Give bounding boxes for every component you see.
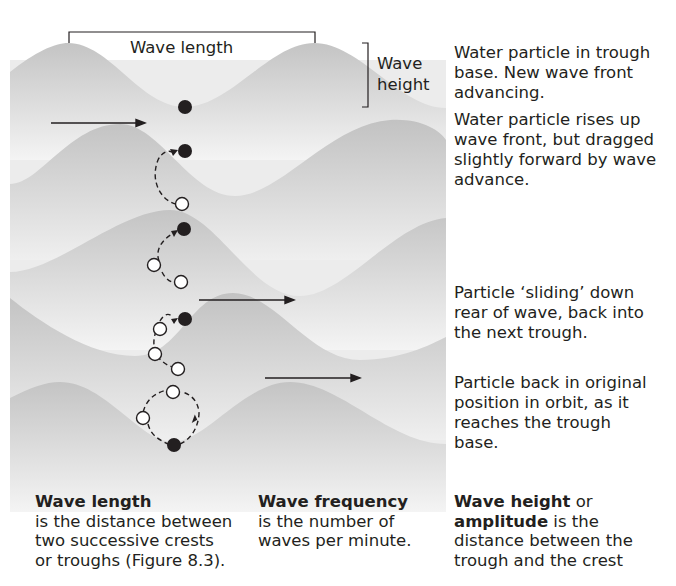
wave-length-label: Wave length bbox=[130, 38, 233, 58]
definition-wave-frequency: Wave frequency is the number of waves pe… bbox=[258, 492, 411, 551]
definition-term: Wave length bbox=[35, 492, 232, 512]
definition-term: Wave frequency bbox=[258, 492, 411, 512]
annotation-stage-2: Water particle rises up wave front, but … bbox=[454, 110, 656, 190]
annotation-stage-4: Particle back in original position in or… bbox=[454, 373, 647, 453]
definition-wave-height: Wave height or amplitude is the distance… bbox=[454, 492, 633, 570]
definition-term: Wave height bbox=[454, 492, 570, 511]
particle-stage-3 bbox=[177, 222, 191, 236]
annotation-stage-3: Particle ‘sliding’ down rear of wave, ba… bbox=[454, 283, 644, 343]
particle-stage-1 bbox=[178, 100, 192, 114]
annotation-stage-1: Water particle in trough base. New wave … bbox=[454, 43, 650, 103]
particle-stage-2 bbox=[178, 144, 192, 158]
wave-height-label: Wave height bbox=[377, 53, 430, 95]
particle-stage-5 bbox=[167, 438, 181, 452]
particle-stage-4 bbox=[178, 312, 192, 326]
definition-wave-length: Wave length is the distance between two … bbox=[35, 492, 232, 570]
definition-term-amplitude: amplitude bbox=[454, 512, 548, 531]
wave-motion-diagram: Wave length Wave height Water particle i… bbox=[0, 0, 676, 586]
